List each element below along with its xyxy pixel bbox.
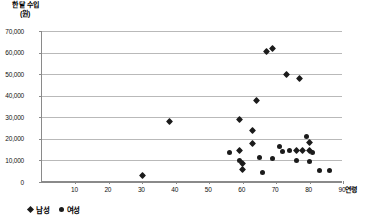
x-tick-label: 40 xyxy=(162,186,188,193)
legend-item-label: 남성 xyxy=(36,204,50,215)
x-axis-title: 연령 xyxy=(345,186,357,193)
y-tick-label: 50,000 xyxy=(0,71,24,78)
legend-item-label: 여성 xyxy=(67,204,81,215)
y-tick-label: 0 xyxy=(0,179,24,186)
y-tick-label: 70,000 xyxy=(0,28,24,35)
x-tick-label: 50 xyxy=(195,186,221,193)
y-tick-label: 10,000 xyxy=(0,157,24,164)
x-tick-label: 30 xyxy=(128,186,154,193)
diamond-marker-icon xyxy=(27,206,34,213)
circle-marker-icon xyxy=(59,207,64,212)
x-tick-label: 80 xyxy=(296,186,322,193)
x-tick-label: 20 xyxy=(95,186,121,193)
y-tick-label: 30,000 xyxy=(0,114,24,121)
y-tick-label: 20,000 xyxy=(0,135,24,142)
y-tick-label: 40,000 xyxy=(0,92,24,99)
legend-item-male[interactable]: 남성 xyxy=(28,204,50,215)
axis-tick-layer: 010,00020,00030,00040,00050,00060,00070,… xyxy=(0,0,368,220)
y-tick-label: 60,000 xyxy=(0,49,24,56)
x-tick-label: 70 xyxy=(262,186,288,193)
chart-legend: 남성여성 xyxy=(28,204,80,215)
legend-item-female[interactable]: 여성 xyxy=(59,204,81,215)
x-tick-label: 10 xyxy=(61,186,87,193)
scatter-chart: 한 달 수입 (원) 010,00020,00030,00040,00050,0… xyxy=(0,0,368,220)
x-tick-label: 60 xyxy=(229,186,255,193)
